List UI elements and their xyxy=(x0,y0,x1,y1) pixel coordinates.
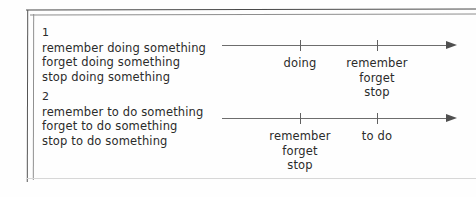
timeline-2-tick-2 xyxy=(377,113,378,124)
section-2-number: 2 xyxy=(42,90,203,105)
timeline-2-arrowhead-icon xyxy=(446,114,457,122)
frame-left-outer-line xyxy=(27,10,28,182)
frame-bottom-line xyxy=(27,178,476,179)
frame-top-inner-line xyxy=(30,14,476,16)
timeline-2-tick-1-label-line-2: forget xyxy=(240,144,360,159)
diagram-canvas: 1 remember doing something forget doing … xyxy=(0,0,476,197)
timeline-2-axis xyxy=(222,118,450,119)
timeline-1-tick-2-label-line-3: stop xyxy=(317,85,437,100)
timeline-2-tick-2-label: to do xyxy=(317,129,437,144)
section-1-line-2: forget doing something xyxy=(42,55,206,70)
timeline-1-tick-2-label-line-1: remember xyxy=(317,56,437,71)
section-2-line-2: forget to do something xyxy=(42,119,203,134)
section-1-number: 1 xyxy=(42,26,206,41)
timeline-1-tick-2-label-line-2: forget xyxy=(317,71,437,86)
timeline-1-arrowhead-icon xyxy=(446,41,457,49)
timeline-1-tick-2-label: remember forget stop xyxy=(317,56,437,100)
timeline-2-tick-1 xyxy=(300,113,301,124)
section-2-line-1: remember to do something xyxy=(42,105,203,120)
timeline-1-axis xyxy=(222,45,450,46)
section-2-line-3: stop to do something xyxy=(42,134,203,149)
timeline-1-tick-2 xyxy=(377,40,378,51)
section-1-line-3: stop doing something xyxy=(42,70,206,85)
section-1-line-1: remember doing something xyxy=(42,41,206,56)
frame-left-inner-line xyxy=(33,14,34,180)
frame-top-outer-line xyxy=(26,9,476,11)
timeline-2-tick-2-label-line-1: to do xyxy=(317,129,437,144)
section-2-timeline: remember forget stop to do xyxy=(222,118,462,119)
section-2-text-block: 2 remember to do something forget to do … xyxy=(42,90,203,148)
section-1-timeline: doing remember forget stop xyxy=(222,45,462,46)
section-1-text-block: 1 remember doing something forget doing … xyxy=(42,26,206,84)
timeline-2-tick-1-label-line-3: stop xyxy=(240,158,360,173)
timeline-1-tick-1 xyxy=(300,40,301,51)
